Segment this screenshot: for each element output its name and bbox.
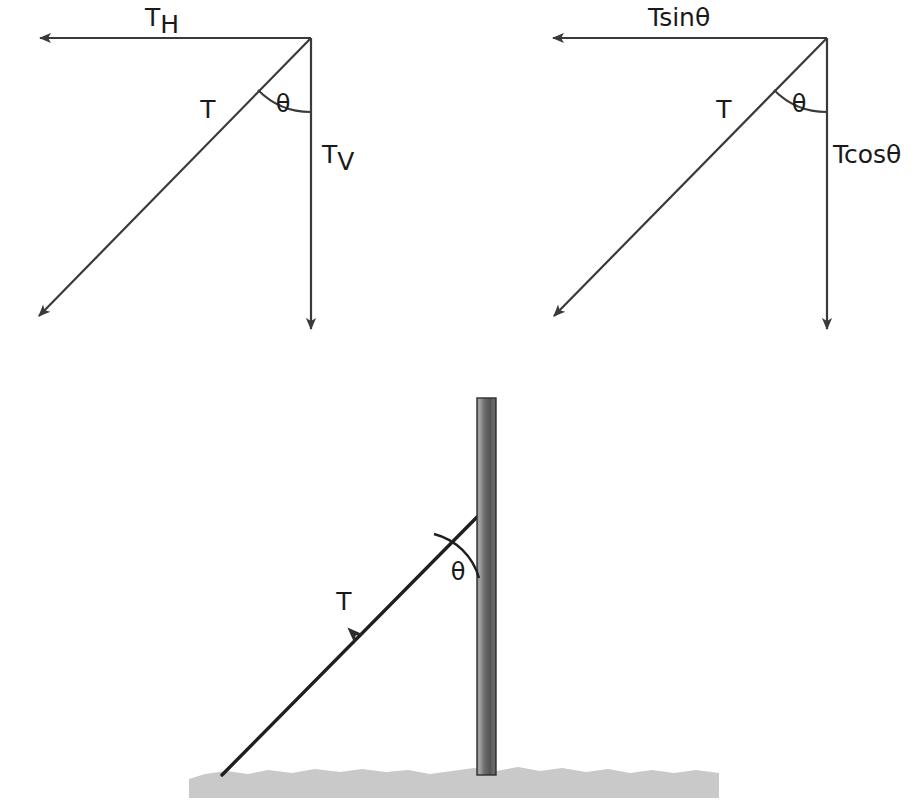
tsin-theta-label: Tsinθ [647, 3, 710, 32]
tension-label: T [715, 95, 732, 124]
theta-label: θ [276, 90, 291, 118]
tension-label: T [199, 95, 216, 124]
horizontal-component-label-base: T [144, 3, 161, 32]
tension-diagram-canvas: TH TV T θ Tsinθ Tcosθ T θ [0, 0, 922, 808]
horizontal-component-label-subscript: H [160, 10, 179, 39]
tension-label: T [335, 587, 352, 616]
tcos-theta-label: Tcosθ [832, 140, 901, 169]
vertical-component-label-base: T [321, 140, 338, 169]
vertical-component-label-subscript: V [337, 147, 354, 176]
vertical-pole [477, 398, 496, 775]
theta-label: θ [451, 558, 466, 586]
theta-label: θ [792, 90, 807, 118]
figure-background [0, 0, 922, 808]
physics-figure: TH TV T θ Tsinθ Tcosθ T θ [0, 0, 922, 808]
